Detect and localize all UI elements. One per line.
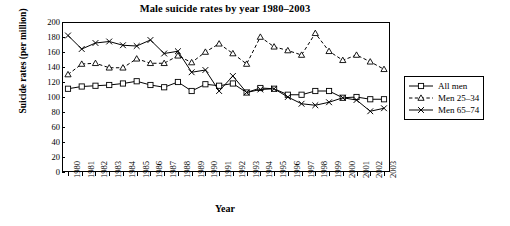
x-tick-label: 1980 (72, 161, 82, 178)
x-tick-mark (192, 172, 193, 176)
data-point-triangle (353, 52, 359, 57)
legend-swatch-triangle (408, 92, 434, 104)
chart-title: Male suicide rates by year 1980–2003 (60, 3, 390, 14)
y-tick-label: 200 (38, 18, 60, 27)
x-tick-mark (329, 172, 330, 176)
data-point-triangle (216, 41, 222, 46)
x-tick-label: 1989 (196, 161, 206, 178)
data-point-square (120, 81, 125, 86)
legend-label: Men 25–34 (434, 93, 479, 103)
data-point-square (162, 85, 167, 90)
legend-label: Men 65–74 (434, 105, 479, 115)
data-point-triangle (189, 59, 195, 64)
data-point-x (230, 73, 236, 79)
x-tick-mark (302, 172, 303, 176)
data-point-square (175, 79, 180, 84)
x-tick-mark (247, 172, 248, 176)
data-point-square (230, 81, 235, 86)
y-tick-label: 20 (38, 153, 60, 162)
x-tick-label: 1988 (182, 161, 192, 178)
x-axis-title: Year (60, 203, 390, 214)
data-point-x (65, 33, 71, 39)
data-point-triangle (381, 66, 387, 71)
x-tick-mark (68, 172, 69, 176)
x-tick-mark (288, 172, 289, 176)
legend-swatch-square (408, 80, 434, 92)
data-point-x (216, 88, 222, 94)
data-point-square (148, 82, 153, 87)
x-tick-label: 1986 (154, 161, 164, 178)
x-tick-label: 2003 (388, 161, 398, 178)
series-3 (65, 33, 387, 115)
x-tick-mark (109, 172, 110, 176)
chart-legend: All menMen 25–34Men 65–74 (404, 76, 484, 120)
x-tick-mark (164, 172, 165, 176)
x-tick-mark (150, 172, 151, 176)
plot-area (62, 22, 390, 172)
x-tick-label: 1985 (141, 161, 151, 178)
x-tick-mark (260, 172, 261, 176)
series-2 (65, 30, 387, 77)
x-tick-mark (357, 172, 358, 176)
x-tick-label: 1992 (237, 161, 247, 178)
x-tick-mark (219, 172, 220, 176)
data-point-square (65, 86, 70, 91)
data-point-triangle (230, 50, 236, 55)
y-tick-label: 40 (38, 138, 60, 147)
y-tick-label: 60 (38, 123, 60, 132)
legend-label: All men (434, 81, 467, 91)
legend-swatch-x (408, 104, 434, 116)
data-point-square (326, 88, 331, 93)
x-tick-label: 1983 (113, 161, 123, 178)
data-point-square (79, 84, 84, 89)
x-tick-label: 1990 (209, 161, 219, 178)
x-tick-mark (95, 172, 96, 176)
x-tick-label: 2002 (374, 161, 384, 178)
data-point-triangle (120, 65, 126, 70)
data-point-x (148, 37, 154, 43)
y-tick-label: 140 (38, 63, 60, 72)
x-tick-mark (315, 172, 316, 176)
x-tick-label: 1994 (264, 161, 274, 178)
x-tick-label: 1993 (251, 161, 261, 178)
x-tick-mark (205, 172, 206, 176)
data-point-square (189, 88, 194, 93)
data-point-triangle (326, 48, 332, 53)
x-tick-label: 1987 (168, 161, 178, 178)
x-tick-label: 1998 (319, 161, 329, 178)
series-line (68, 33, 384, 74)
data-point-square (418, 83, 423, 88)
x-tick-label: 2001 (361, 161, 371, 178)
y-tick-label: 120 (38, 78, 60, 87)
x-tick-mark (370, 172, 371, 176)
data-point-triangle (92, 60, 98, 65)
data-point-square (203, 82, 208, 87)
data-point-square (368, 97, 373, 102)
x-tick-mark (384, 172, 385, 176)
x-tick-mark (233, 172, 234, 176)
data-point-triangle (134, 56, 140, 61)
legend-item-3[interactable]: Men 65–74 (408, 104, 479, 116)
x-tick-label: 1997 (306, 161, 316, 178)
y-tick-label: 160 (38, 48, 60, 57)
x-tick-label: 1982 (99, 161, 109, 178)
x-tick-label: 1984 (127, 161, 137, 178)
x-tick-mark (178, 172, 179, 176)
data-point-triangle (202, 49, 208, 54)
y-tick-label: 80 (38, 108, 60, 117)
legend-item-2[interactable]: Men 25–34 (408, 92, 479, 104)
x-tick-mark (82, 172, 83, 176)
x-tick-label: 1995 (278, 161, 288, 178)
data-point-triangle (244, 61, 250, 66)
data-point-triangle (367, 59, 373, 64)
legend-item-1[interactable]: All men (408, 80, 479, 92)
data-point-triangle (65, 71, 71, 76)
data-point-square (134, 79, 139, 84)
x-tick-mark (137, 172, 138, 176)
x-tick-label: 1981 (86, 161, 96, 178)
data-point-square (381, 97, 386, 102)
x-tick-label: 1996 (292, 161, 302, 178)
data-point-triangle (312, 30, 318, 35)
series-line (68, 36, 384, 112)
x-tick-mark (274, 172, 275, 176)
